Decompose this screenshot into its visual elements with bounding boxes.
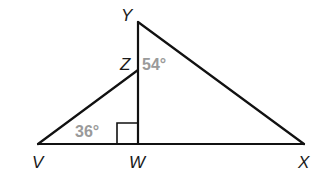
point-label-z: Z: [119, 55, 131, 74]
diagram-svg: Y Z V W X 54° 36°: [0, 0, 322, 176]
angle-label-54: 54°: [142, 56, 166, 73]
geometry-diagram: Y Z V W X 54° 36°: [0, 0, 322, 176]
right-angle-marker: [117, 123, 138, 144]
point-label-x: X: [297, 153, 310, 172]
point-label-v: V: [32, 153, 45, 172]
point-label-y: Y: [121, 6, 134, 25]
point-label-w: W: [129, 153, 147, 172]
angle-label-36: 36°: [75, 123, 99, 140]
segment-yx: [138, 22, 304, 144]
